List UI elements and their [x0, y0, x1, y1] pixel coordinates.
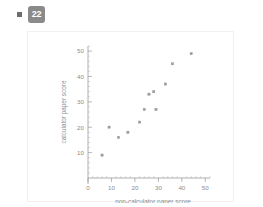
x-axis-title: non-calculator paper score: [115, 198, 191, 203]
data-point: [164, 83, 166, 85]
x-tick-label: 0: [86, 184, 90, 191]
question-header: 22: [0, 0, 263, 30]
data-point: [108, 126, 110, 128]
data-point: [190, 52, 192, 54]
scatter-plot-svg: 010203040501020304050 non-calculator pap…: [28, 32, 235, 203]
data-point: [171, 63, 173, 65]
y-axis-title: calculator paper score: [60, 80, 68, 143]
data-point: [155, 108, 157, 110]
data-point: [101, 154, 103, 156]
x-tick-label: 50: [202, 184, 209, 191]
y-tick-label: 50: [77, 47, 84, 54]
plot-tick-labels: 010203040501020304050: [77, 47, 209, 191]
plot-ticks: [88, 46, 210, 182]
y-tick-label: 10: [77, 149, 84, 156]
data-point: [152, 90, 154, 92]
question-number-badge: 22: [28, 6, 45, 23]
data-point: [138, 121, 140, 123]
plot-axes: [88, 46, 210, 184]
x-tick-label: 40: [178, 184, 185, 191]
y-tick-label: 30: [77, 98, 84, 105]
x-tick-label: 30: [155, 184, 162, 191]
y-tick-label: 40: [77, 73, 84, 80]
data-point: [148, 93, 150, 95]
data-point: [143, 108, 145, 110]
scatter-plot: 010203040501020304050 non-calculator pap…: [28, 32, 235, 203]
square-bullet-icon: [17, 12, 22, 17]
y-tick-label: 20: [77, 124, 84, 131]
data-point: [127, 131, 129, 133]
plot-data-points: [101, 52, 193, 156]
chart-card: 010203040501020304050 non-calculator pap…: [27, 31, 234, 202]
x-tick-label: 10: [108, 184, 115, 191]
data-point: [117, 136, 119, 138]
x-tick-label: 20: [131, 184, 138, 191]
